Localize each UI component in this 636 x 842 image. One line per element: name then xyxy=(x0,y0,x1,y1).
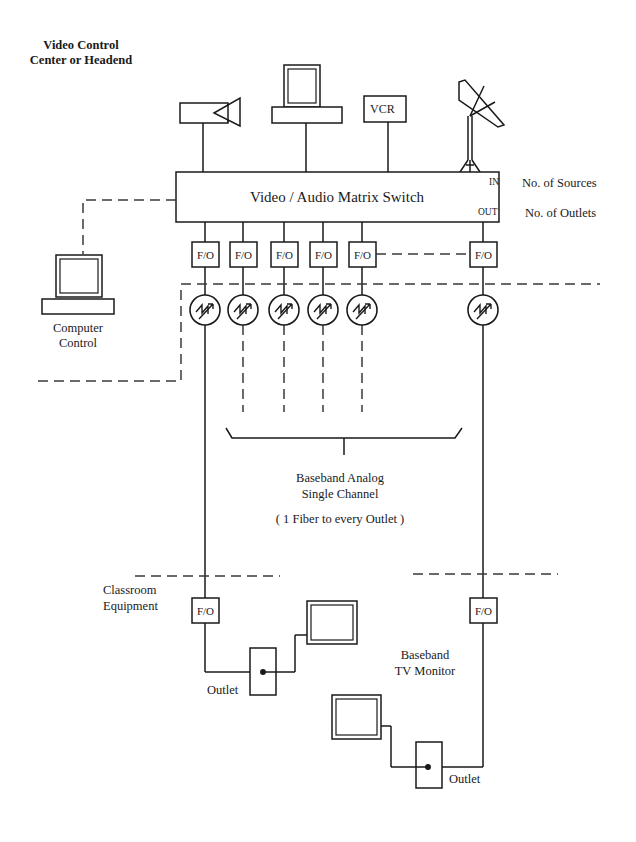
title-line-2: Center or Headend xyxy=(26,53,136,68)
control-link-dashed xyxy=(83,200,176,254)
computer-control-line-2: Control xyxy=(38,336,118,351)
classroom-monitor-icon xyxy=(307,601,357,644)
computer-control-line-1: Computer xyxy=(38,321,118,336)
switch-label: Video / Audio Matrix Switch xyxy=(250,189,424,206)
title-label: Video Control Center or Headend xyxy=(26,38,136,68)
fo-label-1: F/O xyxy=(192,248,219,263)
tv-outlet-icon xyxy=(381,726,442,788)
fo-label-2: F/O xyxy=(230,248,257,263)
classroom-line-1: Classroom xyxy=(103,582,158,598)
camera-icon xyxy=(180,98,240,172)
satellite-dish-icon xyxy=(459,80,504,172)
classroom-outlet-label: Outlet xyxy=(207,683,238,698)
switch-in-label: IN xyxy=(489,175,499,190)
tv-monitor-line-2: TV Monitor xyxy=(385,663,465,679)
fo-label-tv: F/O xyxy=(470,604,497,619)
classroom-label: Classroom Equipment xyxy=(103,582,158,614)
computer-terminal-icon xyxy=(272,65,342,172)
fo-label-4: F/O xyxy=(310,248,337,263)
classroom-outlet-icon xyxy=(250,635,307,695)
tv-monitor-label: Baseband TV Monitor xyxy=(385,647,465,679)
fo-label-3: F/O xyxy=(271,248,298,263)
title-line-1: Video Control xyxy=(26,38,136,53)
fo-label-6: F/O xyxy=(470,248,497,263)
tv-monitor-line-1: Baseband xyxy=(385,647,465,663)
optical-transmitters xyxy=(190,295,498,325)
sources-note: No. of Sources xyxy=(522,176,597,191)
outlets-note: No. of Outlets xyxy=(525,206,596,221)
baseband-label: Baseband Analog Single Channel xyxy=(270,470,410,502)
tv-outlet-label: Outlet xyxy=(449,772,480,787)
vcr-label: VCR xyxy=(370,102,395,117)
diagram-canvas xyxy=(0,0,636,842)
baseband-line-2: Single Channel xyxy=(270,486,410,502)
fo-label-classroom: F/O xyxy=(192,604,219,619)
computer-control-icon xyxy=(42,255,114,314)
classroom-line-2: Equipment xyxy=(103,598,158,614)
tv-monitor-icon xyxy=(332,695,381,739)
baseband-line-1: Baseband Analog xyxy=(270,470,410,486)
computer-control-label: Computer Control xyxy=(38,321,118,351)
baseband-note: ( 1 Fiber to every Outlet ) xyxy=(250,512,430,527)
fo-label-5: F/O xyxy=(349,248,376,263)
switch-out-label: OUT xyxy=(478,205,498,220)
